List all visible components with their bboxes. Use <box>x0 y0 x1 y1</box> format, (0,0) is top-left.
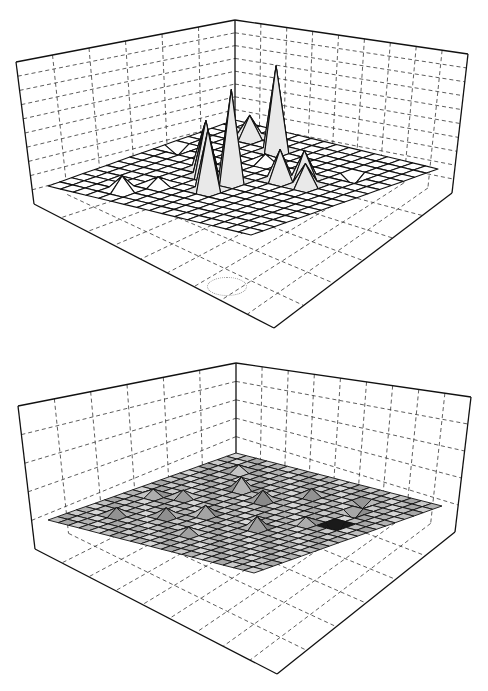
surface-plot-top <box>0 0 488 340</box>
surface-plot-bottom <box>0 340 488 691</box>
smudge-mark <box>207 277 247 296</box>
surface-plot-bottom-canvas <box>0 340 488 691</box>
surface-mesh <box>48 453 442 573</box>
